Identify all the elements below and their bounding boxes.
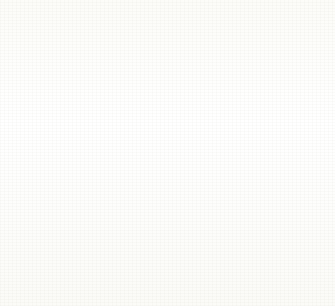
y-ticklabel-50: 50 <box>28 143 40 155</box>
y-axis-line <box>47 27 48 272</box>
y-tick-50 <box>42 150 47 151</box>
callout-top-line-5: decreases by 10%. <box>195 139 317 151</box>
figure-root: 100 90 50 10 0 0 10 50 100 Percent of sp… <box>0 0 335 306</box>
x-ticklabel-50: 50 <box>174 276 186 288</box>
callout-top-line-4: living in that area <box>195 126 317 138</box>
y-ticklabel-10: 10 <box>28 241 40 253</box>
x-axis-title: Percent total landscape area preserved <box>78 291 277 303</box>
callout-top: If landscape area is cut in half, the nu… <box>188 84 324 156</box>
pointing-hand-icon <box>72 145 126 187</box>
y-tick-10 <box>42 248 47 249</box>
callout-top-line-3: number of species <box>195 114 317 126</box>
callout-bottom-line-6: decreases by 50%. <box>104 245 222 257</box>
x-ticklabel-100: 100 <box>303 276 321 288</box>
y-tick-100 <box>42 27 47 28</box>
y-axis-title: Percent of species originally found in a… <box>14 17 26 272</box>
y-tick-90 <box>42 52 47 53</box>
y-ticklabel-0: 0 <box>35 265 41 277</box>
pointing-hand-icon <box>176 52 230 94</box>
x-ticklabel-0: 0 <box>44 276 50 288</box>
x-ticklabel-10: 10 <box>67 276 79 288</box>
callout-bottom-line-2: area is reduced by <box>104 195 222 207</box>
y-ticklabel-90: 90 <box>28 45 40 57</box>
callout-bottom-line-5: that area <box>104 233 222 245</box>
callout-top-line-2: is cut in half, the <box>195 101 317 113</box>
callout-bottom-line-4: of species living in <box>104 220 222 232</box>
callout-bottom: If the landscape area is reduced by 90%,… <box>97 178 229 262</box>
callout-bottom-line-3: 90%, the number <box>104 208 222 220</box>
